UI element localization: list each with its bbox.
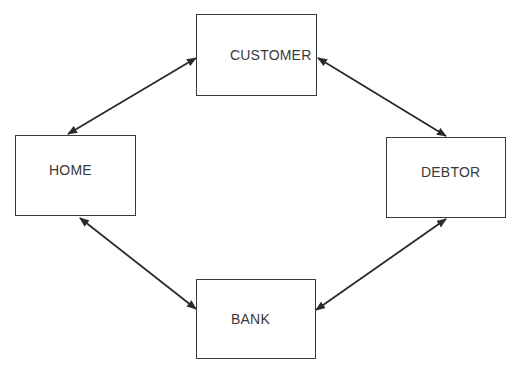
node-debtor-label: DEBTOR	[421, 164, 480, 180]
edge-debtor-bank	[316, 219, 446, 310]
node-bank-label: BANK	[231, 311, 270, 327]
edge-customer-debtor	[318, 58, 446, 136]
edge-customer-home	[68, 58, 196, 134]
node-customer-label: CUSTOMER	[230, 47, 311, 63]
node-debtor: DEBTOR	[386, 137, 506, 218]
node-bank: BANK	[196, 279, 316, 359]
node-home: HOME	[15, 135, 136, 216]
node-home-label: HOME	[49, 162, 92, 178]
node-customer: CUSTOMER	[196, 14, 317, 96]
edge-home-bank	[80, 218, 196, 309]
